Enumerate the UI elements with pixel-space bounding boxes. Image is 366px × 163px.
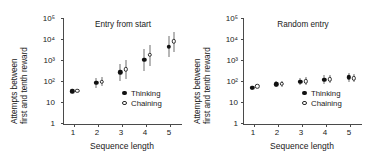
legend-item-chaining: Chaining: [300, 98, 342, 108]
x-tickmark-5: [170, 124, 171, 127]
x-tick-4: 4: [323, 128, 327, 137]
x-tick-4: 4: [143, 128, 147, 137]
y-tick-10000: 10⁴: [43, 35, 55, 44]
y-tickmark-1: [241, 123, 244, 124]
data-point-chaining-x1: [255, 84, 259, 88]
plot-area-random-entry: Random entry Thinking Chaining: [243, 18, 362, 125]
y-axis-label: Attempts between first and tenth reward: [0, 0, 30, 128]
x-tick-1: 1: [71, 128, 75, 137]
legend-label-thinking: Thinking: [131, 89, 160, 98]
y-axis-tick-labels: 10⁵ 10⁴ 10³ 10² 10 1: [33, 0, 55, 163]
x-tickmark-3: [122, 124, 123, 127]
x-tickmark-4: [326, 124, 327, 127]
y-tickmark-100000: [241, 18, 244, 19]
y-axis-label-line2: first and tenth reward: [20, 47, 29, 124]
data-point-chaining-x5: [172, 39, 176, 43]
x-tickmark-5: [350, 124, 351, 127]
data-point-thinking-x5: [346, 75, 350, 79]
panel-random-entry: Attempts between first and tenth reward …: [183, 0, 366, 163]
x-tickmark-3: [302, 124, 303, 127]
y-axis-label-line1: Attempts between: [193, 58, 202, 124]
data-point-thinking-x2: [274, 82, 278, 86]
x-tickmark-1: [254, 124, 255, 127]
y-tick-1: 1: [234, 119, 238, 128]
filled-circle-icon: [300, 91, 309, 95]
x-tickmark-2: [278, 124, 279, 127]
y-tickmark-100: [241, 81, 244, 82]
y-tickmark-1000: [241, 60, 244, 61]
data-point-chaining-x2: [99, 79, 103, 83]
x-tick-2: 2: [95, 128, 99, 137]
y-tickmark-100: [61, 81, 64, 82]
x-tick-3: 3: [299, 128, 303, 137]
data-point-thinking-x1: [70, 89, 74, 93]
y-tickmark-10000: [241, 39, 244, 40]
data-point-thinking-x3: [118, 70, 122, 74]
y-tickmark-10: [61, 102, 64, 103]
panel-title: Entry from start: [64, 20, 182, 29]
open-circle-icon: [120, 101, 129, 105]
figure-two-panel-chart: Attempts between first and tenth reward …: [0, 0, 366, 163]
x-tick-5: 5: [167, 128, 171, 137]
legend: Thinking Chaining: [120, 88, 162, 108]
data-point-thinking-x1: [250, 86, 254, 90]
panel-entry-from-start: Attempts between first and tenth reward …: [0, 0, 183, 163]
panel-title: Random entry: [244, 20, 362, 29]
y-tick-10: 10: [229, 98, 238, 107]
y-tick-100000: 10⁵: [43, 14, 55, 23]
x-tick-3: 3: [119, 128, 123, 137]
y-tickmark-10000: [61, 39, 64, 40]
y-tickmark-10: [241, 102, 244, 103]
filled-circle-icon: [120, 91, 129, 95]
data-point-chaining-x1: [75, 88, 79, 92]
y-tick-100: 10²: [226, 77, 238, 86]
legend-label-chaining: Chaining: [311, 99, 342, 108]
y-axis-label: Attempts between first and tenth reward: [183, 0, 213, 128]
data-point-chaining-x5: [352, 76, 356, 80]
y-tick-1: 1: [51, 119, 55, 128]
x-tick-5: 5: [347, 128, 351, 137]
data-point-chaining-x3: [303, 79, 307, 83]
legend-label-chaining: Chaining: [131, 99, 162, 108]
data-point-chaining-x2: [279, 82, 283, 86]
legend-label-thinking: Thinking: [311, 89, 340, 98]
y-tick-10000: 10⁴: [226, 35, 238, 44]
data-point-chaining-x3: [123, 67, 127, 71]
y-tick-100: 10²: [43, 77, 55, 86]
x-tick-1: 1: [251, 128, 255, 137]
legend: Thinking Chaining: [300, 88, 342, 108]
x-tick-2: 2: [275, 128, 279, 137]
x-tickmark-1: [74, 124, 75, 127]
data-point-chaining-x4: [327, 77, 331, 81]
plot-area-entry-from-start: Entry from start Thinking Chaining: [63, 18, 182, 125]
legend-item-thinking: Thinking: [120, 88, 162, 98]
y-tick-100000: 10⁵: [226, 14, 238, 23]
x-tickmark-2: [98, 124, 99, 127]
y-axis-label-line1: Attempts between: [10, 58, 19, 124]
x-axis-label: Sequence length: [63, 141, 181, 151]
data-point-thinking-x3: [298, 79, 302, 83]
y-tick-1000: 10³: [43, 56, 55, 65]
data-point-thinking-x5: [166, 44, 170, 48]
data-point-thinking-x4: [142, 57, 146, 61]
y-axis-tick-labels: 10⁵ 10⁴ 10³ 10² 10 1: [216, 0, 238, 163]
open-circle-icon: [300, 101, 309, 105]
legend-item-chaining: Chaining: [120, 98, 162, 108]
data-point-thinking-x2: [94, 81, 98, 85]
y-tickmark-1000: [61, 60, 64, 61]
data-point-thinking-x4: [322, 77, 326, 81]
y-tick-10: 10: [46, 98, 55, 107]
y-tickmark-100000: [61, 18, 64, 19]
data-point-chaining-x4: [147, 53, 151, 57]
x-tickmark-4: [146, 124, 147, 127]
legend-item-thinking: Thinking: [300, 88, 342, 98]
y-tick-1000: 10³: [226, 56, 238, 65]
x-axis-label: Sequence length: [243, 141, 361, 151]
y-tickmark-1: [61, 123, 64, 124]
y-axis-label-line2: first and tenth reward: [203, 47, 212, 124]
